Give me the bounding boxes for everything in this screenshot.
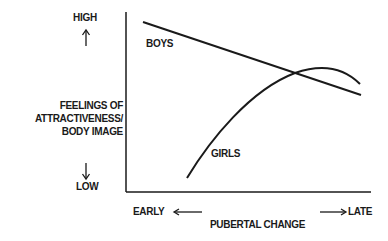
boys-line: [143, 22, 361, 95]
boys-series-label: BOYS: [146, 38, 173, 49]
high-label: HIGH: [73, 12, 97, 23]
y-axis-title: FEELINGS OF ATTRACTIVENESS/ BODY IMAGE: [0, 99, 123, 138]
girls-series-label: GIRLS: [211, 148, 240, 159]
early-label: EARLY: [133, 206, 164, 217]
down-arrow-icon: [83, 163, 90, 179]
y-axis-title-line: FEELINGS OF: [0, 99, 123, 112]
low-label: LOW: [76, 181, 98, 192]
y-axis-title-line: ATTRACTIVENESS/: [0, 112, 123, 125]
right-arrow-icon: [320, 209, 346, 215]
girls-curve: [187, 68, 360, 178]
x-axis-title: PUBERTAL CHANGE: [210, 219, 305, 230]
left-arrow-icon: [174, 209, 202, 215]
up-arrow-icon: [83, 30, 90, 46]
late-label: LATE: [348, 206, 372, 217]
y-axis-title-line: BODY IMAGE: [0, 125, 123, 138]
